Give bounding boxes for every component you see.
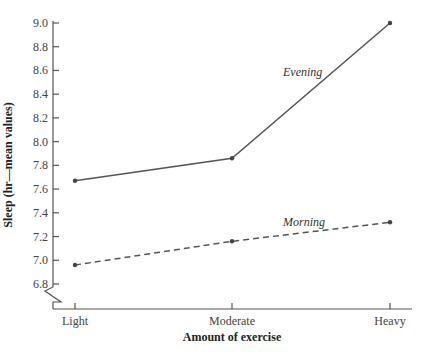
y-tick-label: 6.8 [33, 277, 48, 291]
x-tick-label-moderate: Moderate [209, 314, 255, 328]
series-line-morning [75, 222, 390, 265]
axes [45, 21, 412, 309]
x-tick-label-light: Light [62, 314, 89, 328]
x-ticks: LightModerateHeavy [62, 303, 406, 328]
y-tick-label: 8.0 [33, 135, 48, 149]
series-lines [73, 21, 392, 267]
y-axis-title: Sleep (hr—mean values) [1, 102, 15, 227]
x-axis-title: Amount of exercise [183, 330, 282, 344]
y-tick-label: 8.6 [33, 63, 48, 77]
y-ticks: 6.87.07.27.47.67.88.08.28.48.68.89.0 [33, 16, 59, 291]
series-label-evening: Evening [282, 65, 322, 79]
data-point [388, 21, 392, 25]
y-tick-label: 8.8 [33, 40, 48, 54]
data-point [230, 239, 234, 243]
data-point [73, 179, 77, 183]
y-tick-label: 8.4 [33, 87, 48, 101]
y-tick-label: 7.4 [33, 206, 48, 220]
data-point [73, 263, 77, 267]
data-point [230, 156, 234, 160]
y-tick-label: 8.2 [33, 111, 48, 125]
series-label-morning: Morning [282, 215, 325, 229]
y-tick-label: 7.8 [33, 158, 48, 172]
y-tick-label: 7.6 [33, 182, 48, 196]
line-chart: 6.87.07.27.47.67.88.08.28.48.68.89.0 Lig… [0, 0, 427, 352]
y-tick-label: 7.2 [33, 230, 48, 244]
x-tick-label-heavy: Heavy [374, 314, 405, 328]
y-tick-label: 7.0 [33, 253, 48, 267]
y-tick-label: 9.0 [33, 16, 48, 30]
data-point [388, 220, 392, 224]
